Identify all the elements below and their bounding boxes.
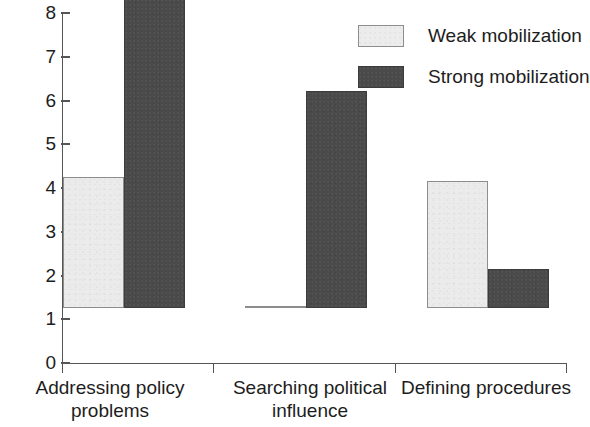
bar-strong-3 xyxy=(488,269,549,308)
x-axis-category-label: Defining procedures xyxy=(398,376,574,399)
weak-swatch xyxy=(358,25,404,47)
bar-weak-3 xyxy=(427,181,488,308)
bar-strong-2 xyxy=(306,91,367,308)
bar-strong-1 xyxy=(124,0,185,308)
x-axis-category-label-line: Addressing policy xyxy=(10,376,210,399)
bar-weak-2 xyxy=(245,306,306,308)
x-axis-category-label-line: problems xyxy=(10,399,210,422)
x-axis-category-label: Searching politicalinfluence xyxy=(215,376,405,422)
x-axis-category-label-line: influence xyxy=(215,399,405,422)
legend-item-label: Strong mobilization xyxy=(428,62,590,92)
x-axis-category-label: Addressing policyproblems xyxy=(10,376,210,422)
chart-legend: Weak mobilizationStrong mobilization xyxy=(358,21,574,103)
x-axis-category-label-line: Defining procedures xyxy=(398,376,574,399)
bar-weak-1 xyxy=(63,177,124,308)
legend-item-label: Weak mobilization xyxy=(428,21,582,51)
x-axis-category-label-line: Searching political xyxy=(215,376,405,399)
legend-item: Strong mobilization xyxy=(358,62,574,103)
strong-swatch xyxy=(358,66,404,88)
legend-item: Weak mobilization xyxy=(358,21,574,62)
x-axis-category-labels: Addressing policyproblemsSearching polit… xyxy=(0,376,574,427)
